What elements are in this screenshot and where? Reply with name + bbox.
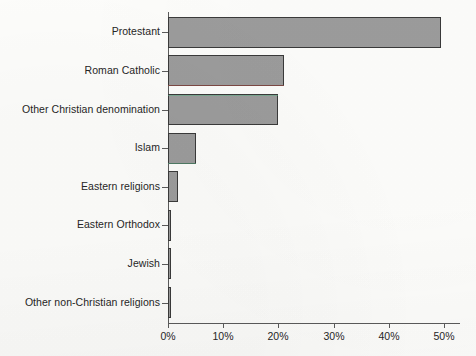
bar bbox=[168, 248, 171, 279]
category-label: Other Christian denomination bbox=[0, 103, 160, 115]
category-label: Other non-Christian religions bbox=[0, 296, 160, 308]
bar bbox=[168, 133, 196, 164]
x-axis-tick bbox=[278, 323, 279, 328]
category-label: Jewish bbox=[0, 257, 160, 269]
category-label: Protestant bbox=[0, 25, 160, 37]
x-axis-line bbox=[168, 323, 460, 324]
x-axis-tick bbox=[223, 323, 224, 328]
bar-chart: ProtestantRoman CatholicOther Christian … bbox=[0, 0, 476, 356]
x-axis-tick-label: 30% bbox=[323, 330, 344, 342]
x-axis-tick-label: 0% bbox=[160, 330, 175, 342]
category-label: Eastern religions bbox=[0, 180, 160, 192]
x-axis-tick-label: 50% bbox=[433, 330, 454, 342]
bar bbox=[168, 171, 178, 202]
category-label: Islam bbox=[0, 141, 160, 153]
scan-fringe bbox=[168, 163, 196, 164]
bar bbox=[168, 210, 171, 241]
bar bbox=[168, 287, 171, 318]
bar bbox=[168, 55, 284, 86]
x-axis-tick bbox=[168, 323, 169, 328]
bar bbox=[168, 17, 441, 48]
category-label: Eastern Orthodox bbox=[0, 218, 160, 230]
chart-page: ProtestantRoman CatholicOther Christian … bbox=[0, 0, 476, 356]
bar bbox=[168, 94, 278, 125]
x-axis-tick bbox=[444, 323, 445, 328]
x-axis-tick bbox=[334, 323, 335, 328]
scan-fringe bbox=[168, 95, 278, 96]
category-label: Roman Catholic bbox=[0, 64, 160, 76]
x-axis-tick-label: 20% bbox=[267, 330, 288, 342]
scan-fringe bbox=[168, 85, 284, 86]
x-axis-tick-label: 10% bbox=[212, 330, 233, 342]
x-axis-tick bbox=[389, 323, 390, 328]
x-axis-tick-label: 40% bbox=[378, 330, 399, 342]
